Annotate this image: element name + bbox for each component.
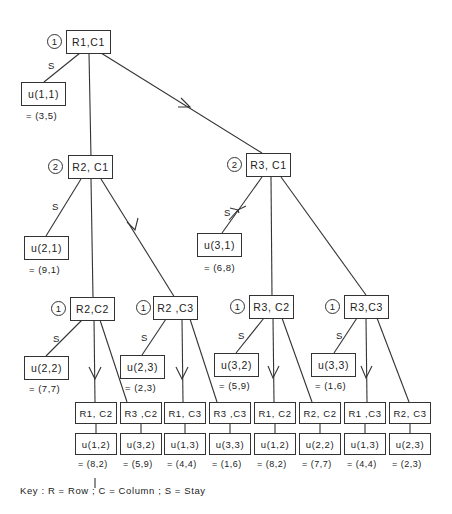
node-label: R2, C1 [72, 161, 108, 173]
node-label: u(1,1) [28, 88, 59, 100]
stage-number: 1 [56, 303, 61, 314]
leaf-utility: u(1,3) [164, 433, 206, 455]
stay-label: S [52, 201, 59, 212]
node-r2c1: R2, C1 [68, 155, 113, 179]
stay-label: S [53, 333, 60, 344]
stage-marker-r3c2: 1 [230, 299, 245, 314]
node-label: u(3,1) [204, 239, 235, 251]
leaf-payoff: = (5,9) [123, 459, 153, 469]
node-u33: u(3,3) [311, 353, 356, 377]
node-r2c2: R2,C2 [70, 297, 115, 321]
leaf-node: R1, C2 [75, 402, 117, 424]
node-label: u(3,3) [216, 439, 244, 450]
leaf-utility: u(3,2) [120, 433, 162, 455]
node-r3c1: R3, C1 [246, 153, 291, 177]
node-u22: u(2,2) [24, 356, 69, 380]
stage-number: 2 [53, 161, 58, 172]
stage-marker-r2c2: 1 [51, 301, 66, 316]
leaf-payoff: = (4,4) [347, 459, 377, 469]
leaf-utility: u(2,3) [389, 433, 431, 455]
stage-number: 2 [232, 159, 237, 170]
payoff-u11: = (3,5) [26, 110, 57, 121]
node-label: u(3,2) [221, 359, 252, 371]
node-label: R1, C2 [79, 408, 112, 419]
node-label: R1,C1 [72, 36, 105, 48]
node-label: u(1,2) [261, 439, 289, 450]
leaf-node: R1, C2 [254, 402, 296, 424]
leaf-payoff: = (4,4) [167, 459, 197, 469]
leaf-utility: u(1,2) [75, 433, 117, 455]
legend-key: Key : R = Row ; C = Column ; S = Stay [20, 485, 206, 496]
leaf-node: R1 ,C3 [344, 402, 386, 424]
payoff-u23: = (2,3) [125, 382, 156, 393]
node-label: u(1,3) [171, 439, 199, 450]
node-u23: u(2,3) [120, 355, 165, 379]
node-r3c2: R3, C2 [249, 295, 294, 319]
node-label: R3,C3 [350, 301, 383, 313]
leaf-payoff: = (2,3) [392, 459, 422, 469]
node-r3c3: R3,C3 [344, 295, 389, 319]
node-u31: u(3,1) [197, 233, 242, 257]
stay-label: S [48, 60, 55, 71]
leaf-node: R3 ,C2 [120, 402, 162, 424]
leaf-node: R2, C3 [389, 402, 431, 424]
node-label: R3 ,C2 [124, 408, 157, 419]
stay-label: S [224, 207, 231, 218]
payoff-u21: = (9,1) [29, 264, 60, 275]
leaf-payoff: = (7,7) [302, 459, 332, 469]
leaf-node: R3 ,C3 [209, 402, 251, 424]
node-r2c3: R2 ,C3 [153, 296, 198, 320]
stage-number: 1 [52, 36, 57, 47]
node-label: u(2,2) [306, 439, 334, 450]
leaf-node: R2, C2 [299, 402, 341, 424]
node-label: u(2,2) [31, 362, 62, 374]
stage-marker-r3c1: 2 [227, 157, 242, 172]
node-label: u(2,3) [127, 361, 158, 373]
node-label: R2, C3 [393, 408, 426, 419]
stage-marker-r2c1: 2 [48, 159, 63, 174]
leaf-payoff: = (8,2) [78, 459, 108, 469]
node-label: u(2,3) [396, 439, 424, 450]
leaf-utility: u(1,3) [344, 433, 386, 455]
stay-label: S [238, 330, 245, 341]
stage-number: 1 [235, 301, 240, 312]
node-label: u(3,2) [127, 439, 155, 450]
node-label: R1 ,C3 [348, 408, 381, 419]
stage-marker-r3c3: 1 [325, 299, 340, 314]
payoff-u33: = (1,6) [315, 380, 346, 391]
node-label: u(1,2) [82, 439, 110, 450]
node-u21: u(2,1) [24, 236, 69, 260]
stage-marker-r2c3: 1 [136, 300, 151, 315]
node-label: R1, C3 [168, 408, 201, 419]
node-r1c1: R1,C1 [66, 30, 111, 54]
node-label: R2, C2 [303, 408, 336, 419]
node-label: R3, C1 [250, 159, 286, 171]
node-label: R3 ,C3 [213, 408, 246, 419]
node-u11: u(1,1) [21, 82, 66, 106]
node-label: u(2,1) [31, 242, 62, 254]
stay-label: S [141, 332, 148, 343]
leaf-utility: u(2,2) [299, 433, 341, 455]
node-u32: u(3,2) [214, 353, 259, 377]
node-label: R2,C2 [76, 303, 109, 315]
stage-number: 1 [330, 301, 335, 312]
stay-label: S [336, 330, 343, 341]
node-label: R1, C2 [258, 408, 291, 419]
payoff-u31: = (6,8) [204, 262, 235, 273]
payoff-u32: = (5,9) [219, 380, 250, 391]
leaf-payoff: = (1,6) [212, 459, 242, 469]
leaf-utility: u(1,2) [254, 433, 296, 455]
node-label: R2 ,C3 [157, 302, 193, 314]
leaf-node: R1, C3 [164, 402, 206, 424]
node-label: R3, C2 [253, 301, 289, 313]
payoff-u22: = (7,7) [29, 383, 60, 394]
node-label: u(3,3) [318, 359, 349, 371]
node-label: u(1,3) [351, 439, 379, 450]
leaf-payoff: = (8,2) [257, 459, 287, 469]
stage-number: 1 [141, 302, 146, 313]
leaf-utility: u(3,3) [209, 433, 251, 455]
stage-marker-root: 1 [47, 34, 62, 49]
